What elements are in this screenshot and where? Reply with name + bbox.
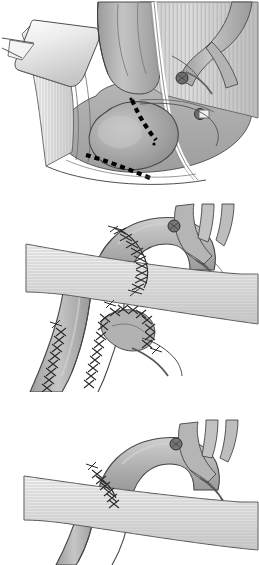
clip-on-branch bbox=[170, 438, 182, 450]
clip-on-branch bbox=[168, 220, 180, 232]
panel-1-canvas bbox=[0, 0, 259, 190]
surgical-illustration-figure bbox=[0, 0, 259, 565]
muscle-band bbox=[24, 476, 258, 550]
clip-upper bbox=[176, 72, 188, 84]
ascending-aorta bbox=[97, 2, 160, 94]
panel-3-canvas bbox=[0, 398, 259, 565]
surgical-retractor[interactable] bbox=[2, 20, 99, 87]
panel-1 bbox=[0, 0, 259, 190]
panel-2 bbox=[0, 196, 259, 392]
panel-3 bbox=[0, 398, 259, 565]
branch-patch bbox=[101, 310, 182, 376]
panel-2-canvas bbox=[0, 196, 259, 392]
